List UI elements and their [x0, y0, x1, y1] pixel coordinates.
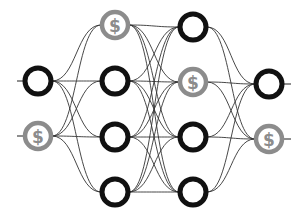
edge-l1n1-l2n0: [129, 27, 179, 81]
edge-l1n3-l2n0: [129, 27, 179, 192]
plain-node-ring: [256, 71, 282, 97]
node-hidden-2-1: $: [180, 69, 206, 95]
node-hidden-2-0: [180, 14, 206, 40]
plain-node-ring: [102, 124, 128, 150]
neural-network-diagram: $$$$: [0, 0, 308, 224]
node-output-1: $: [256, 126, 282, 152]
plain-node-ring: [102, 179, 128, 205]
dollar-sign-icon: $: [187, 73, 199, 93]
plain-node-ring: [25, 68, 51, 94]
edge-l0n0-l1n0: [52, 25, 101, 81]
node-input-0: [25, 68, 51, 94]
dollar-sign-icon: $: [263, 130, 275, 150]
plain-node-ring: [180, 124, 206, 150]
plain-node-ring: [180, 179, 206, 205]
node-hidden-1-3: [102, 179, 128, 205]
edge-l2n0-l3n0: [207, 27, 255, 84]
node-hidden-2-3: [180, 179, 206, 205]
edge-l2n3-l3n0: [207, 84, 255, 192]
node-hidden-1-2: [102, 124, 128, 150]
edges-group: [52, 25, 255, 192]
plain-node-ring: [180, 14, 206, 40]
node-hidden-1-0: $: [102, 12, 128, 38]
dollar-sign-icon: $: [109, 16, 121, 36]
edge-l0n1-l1n3: [52, 136, 101, 192]
plain-node-ring: [102, 68, 128, 94]
node-hidden-1-1: [102, 68, 128, 94]
edge-l2n3-l3n1: [207, 139, 255, 192]
node-hidden-2-2: [180, 124, 206, 150]
edge-l2n2-l3n0: [207, 84, 255, 137]
node-input-1: $: [25, 123, 51, 149]
dollar-sign-icon: $: [32, 127, 44, 147]
edge-l1n3-l2n2: [129, 137, 179, 192]
edge-l0n1-l1n1: [52, 81, 101, 136]
node-output-0: [256, 71, 282, 97]
edge-l0n1-l1n0: [52, 25, 101, 136]
edge-l0n1-l1n2: [52, 136, 101, 137]
